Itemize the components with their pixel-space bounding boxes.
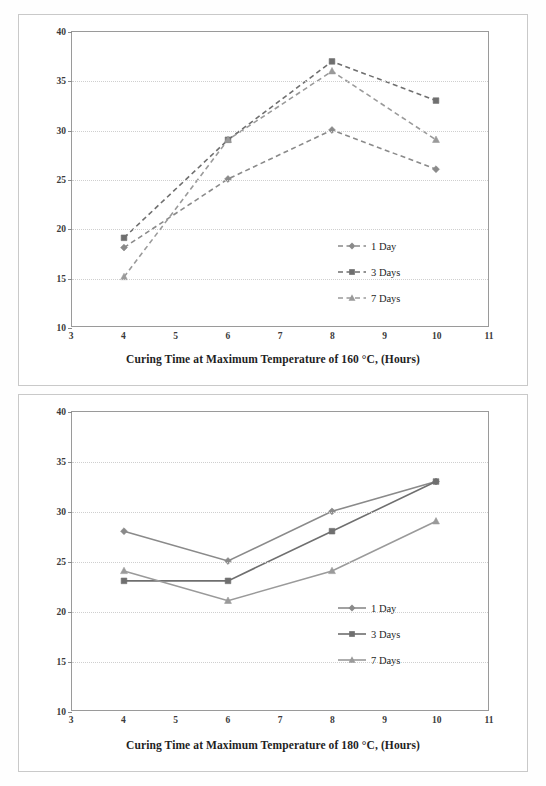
data-point-marker	[225, 578, 231, 584]
legend-swatch-diamond-icon	[337, 602, 367, 614]
x-tick-label: 10	[432, 331, 442, 341]
y-tick-mark	[68, 32, 72, 33]
y-tick-label: 20	[57, 224, 67, 234]
y-gridline	[72, 131, 488, 132]
chart-panel-180c: Compressive Strength (ksc) 1015202530354…	[18, 394, 528, 772]
y-gridline	[72, 81, 488, 82]
data-point-marker	[329, 59, 335, 65]
y-tick-label: 20	[57, 607, 67, 617]
y-tick-label: 35	[57, 76, 67, 86]
y-tick-label: 15	[57, 657, 67, 667]
chart-panel-160c: Compressive Strength (ksc) 1015202530354…	[18, 14, 528, 386]
y-tick-label: 25	[57, 175, 67, 185]
x-tick-label: 6	[225, 331, 230, 341]
x-tick-label: 11	[485, 331, 494, 341]
y-tick-mark	[68, 279, 72, 280]
y-tick-mark	[68, 412, 72, 413]
legend-label: 1 Day	[371, 603, 396, 614]
legend-swatch-square-icon	[337, 266, 367, 278]
data-point-marker	[433, 479, 439, 485]
x-tick-label: 10	[432, 715, 442, 725]
x-tick-label: 4	[121, 331, 126, 341]
y-tick-label: 10	[57, 707, 67, 717]
data-point-marker	[121, 567, 128, 573]
x-axis-title-180c: Curing Time at Maximum Temperature of 18…	[19, 739, 527, 751]
y-tick-mark	[68, 562, 72, 563]
legend-swatch-square-icon	[337, 628, 367, 640]
y-gridline	[72, 229, 488, 230]
y-tick-label: 25	[57, 557, 67, 567]
data-point-marker	[121, 578, 127, 584]
data-point-marker	[329, 67, 336, 73]
legend-label: 1 Day	[371, 241, 396, 252]
y-gridline	[72, 180, 488, 181]
series-line-3-days	[124, 61, 436, 237]
x-axis-ticks-180c: 34567891011	[71, 713, 489, 729]
x-tick-label: 11	[485, 715, 494, 725]
data-point-marker	[433, 518, 440, 524]
legend-label: 7 Days	[371, 293, 400, 304]
x-tick-label: 3	[69, 715, 74, 725]
x-tick-label: 5	[173, 715, 178, 725]
legend-swatch-triangle-icon	[337, 292, 367, 304]
legend-item-3-days[interactable]: 3 Days	[337, 259, 400, 285]
plot-area-160c: 10152025303540	[71, 31, 489, 327]
legend-label: 7 Days	[371, 655, 400, 666]
y-tick-label: 30	[57, 126, 67, 136]
y-tick-mark	[68, 662, 72, 663]
plot-area-180c: 10152025303540	[71, 411, 489, 711]
x-axis-title-160c: Curing Time at Maximum Temperature of 16…	[19, 353, 527, 365]
legend-item-7-days[interactable]: 7 Days	[337, 285, 400, 311]
legend-item-1-day[interactable]: 1 Day	[337, 595, 400, 621]
x-tick-label: 9	[382, 715, 387, 725]
y-tick-label: 35	[57, 457, 67, 467]
x-tick-label: 3	[69, 331, 74, 341]
y-tick-label: 40	[57, 407, 67, 417]
y-tick-mark	[68, 512, 72, 513]
series-line-7-days	[124, 521, 436, 600]
legend-label: 3 Days	[371, 267, 400, 278]
x-tick-label: 7	[278, 331, 283, 341]
series-canvas-160c	[72, 32, 488, 326]
legend-item-7-days[interactable]: 7 Days	[337, 647, 400, 673]
y-tick-mark	[68, 462, 72, 463]
y-tick-mark	[68, 229, 72, 230]
data-point-marker	[433, 166, 440, 173]
y-tick-label: 30	[57, 507, 67, 517]
y-gridline	[72, 462, 488, 463]
x-tick-label: 8	[330, 331, 335, 341]
y-gridline	[72, 562, 488, 563]
x-tick-label: 9	[382, 331, 387, 341]
y-tick-mark	[68, 612, 72, 613]
legend-180c: 1 Day3 Days7 Days	[337, 595, 400, 673]
x-axis-ticks-160c: 34567891011	[71, 329, 489, 345]
legend-swatch-triangle-icon	[337, 654, 367, 666]
x-tick-label: 8	[330, 715, 335, 725]
legend-160c: 1 Day3 Days7 Days	[337, 233, 400, 311]
y-gridline	[72, 612, 488, 613]
y-tick-label: 10	[57, 323, 67, 333]
x-tick-label: 7	[278, 715, 283, 725]
y-tick-label: 40	[57, 27, 67, 37]
data-point-marker	[329, 528, 335, 534]
y-gridline	[72, 662, 488, 663]
x-tick-label: 5	[173, 331, 178, 341]
legend-item-3-days[interactable]: 3 Days	[337, 621, 400, 647]
data-point-marker	[433, 136, 440, 142]
y-tick-mark	[68, 81, 72, 82]
x-tick-label: 4	[121, 715, 126, 725]
x-tick-label: 6	[225, 715, 230, 725]
y-gridline	[72, 279, 488, 280]
legend-swatch-diamond-icon	[337, 240, 367, 252]
legend-item-1-day[interactable]: 1 Day	[337, 233, 400, 259]
data-point-marker	[225, 558, 232, 565]
y-tick-mark	[68, 131, 72, 132]
y-tick-label: 15	[57, 274, 67, 284]
y-tick-mark	[68, 180, 72, 181]
data-point-marker	[433, 98, 439, 104]
y-gridline	[72, 512, 488, 513]
series-line-1-day	[124, 482, 436, 561]
data-point-marker	[121, 235, 127, 241]
series-line-3-days	[124, 482, 436, 581]
data-point-marker	[121, 528, 128, 535]
